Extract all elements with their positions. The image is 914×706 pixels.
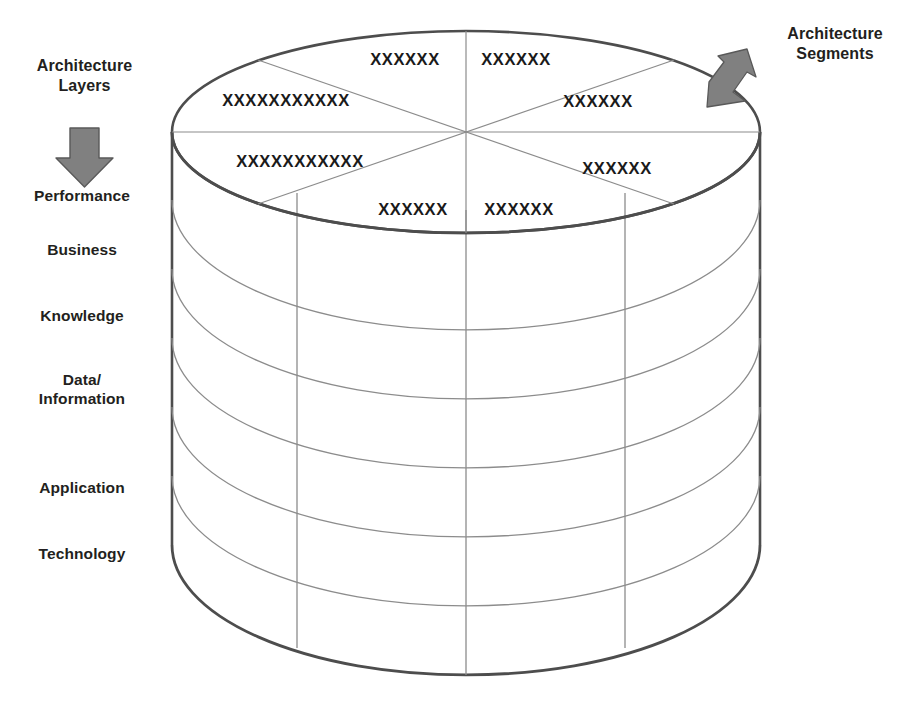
top-segment-dividers: [172, 31, 760, 233]
segment-label-bottom-left: XXXXXX: [378, 200, 448, 219]
segment-vertical-lines: [297, 193, 625, 675]
segment-label-upper-right: XXXXXX: [563, 92, 633, 111]
segment-label-upper-left: XXXXXXXXXXX: [222, 91, 350, 110]
layer-label-technology: Technology: [2, 544, 162, 563]
diagonal-arrow-icon: [707, 49, 756, 107]
cylinder-diagram: [0, 0, 914, 706]
diagram-canvas: Architecture Layers Architecture Segment…: [0, 0, 914, 706]
segment-label-top-left: XXXXXX: [370, 50, 440, 69]
down-arrow-icon: [56, 128, 113, 187]
layer-label-knowledge: Knowledge: [2, 306, 162, 325]
layer-label-data-information: Data/ Information: [2, 370, 162, 409]
architecture-segments-callout-label: Architecture Segments: [760, 24, 910, 64]
layer-label-performance: Performance: [2, 186, 162, 205]
layer-label-business: Business: [2, 240, 162, 259]
segment-label-lower-right: XXXXXX: [582, 159, 652, 178]
segment-label-bottom-right: XXXXXX: [484, 200, 554, 219]
architecture-layers-callout-label: Architecture Layers: [2, 56, 167, 96]
layer-label-application: Application: [2, 478, 162, 497]
segment-label-lower-left: XXXXXXXXXXX: [236, 152, 364, 171]
segment-label-top-right: XXXXXX: [481, 50, 551, 69]
